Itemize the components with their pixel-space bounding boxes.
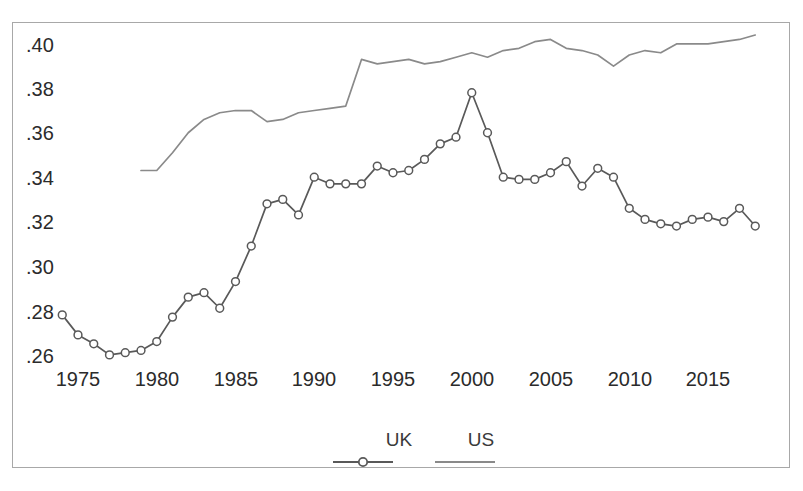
xtick-label-1985: 1985 <box>214 368 259 391</box>
ytick-label-26: .26 <box>26 345 54 368</box>
xtick-label-2015: 2015 <box>686 368 731 391</box>
ytick-label-40: .40 <box>26 34 54 57</box>
xtick-label-1995: 1995 <box>371 368 416 391</box>
ytick-label-30: .30 <box>26 256 54 279</box>
ytick-label-28: .28 <box>26 301 54 324</box>
ytick-label-38: .38 <box>26 78 54 101</box>
xtick-label-1975: 1975 <box>56 368 101 391</box>
ytick-label-32: .32 <box>26 211 54 234</box>
xtick-label-1980: 1980 <box>135 368 180 391</box>
xtick-label-1990: 1990 <box>292 368 337 391</box>
ytick-label-36: .36 <box>26 122 54 145</box>
ytick-label-34: .34 <box>26 167 54 190</box>
legend-label-us: US <box>468 429 494 451</box>
plot-area-frame <box>12 22 790 468</box>
xtick-label-2005: 2005 <box>529 368 574 391</box>
xtick-label-2010: 2010 <box>608 368 653 391</box>
legend-label-uk: UK <box>386 429 412 451</box>
xtick-label-2000: 2000 <box>450 368 495 391</box>
chart-figure: .40 .38 .36 .34 .32 .30 .28 .26 1975 198… <box>0 0 803 491</box>
